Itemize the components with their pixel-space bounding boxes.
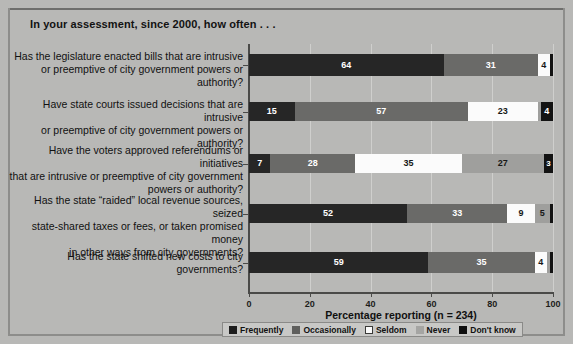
legend-swatch-icon — [292, 326, 300, 334]
legend-item[interactable]: Frequently — [229, 325, 283, 335]
legend-swatch-icon — [229, 326, 237, 334]
bar-row: 72835273 — [249, 154, 553, 173]
legend-label: Frequently — [240, 325, 283, 335]
category-label-line: Has the state “raided” local revenue sou… — [3, 194, 243, 220]
bar-value-label: 35 — [477, 258, 487, 267]
legend-item[interactable]: Seldom — [365, 325, 407, 335]
bar-value-label: 31 — [486, 61, 496, 70]
category-label: Has the state shifted new costs to city … — [3, 250, 243, 276]
bar-segment: 4 — [541, 102, 553, 121]
category-label-line: Have the voters approved referendums or … — [3, 144, 243, 170]
y-tick — [243, 112, 249, 113]
bar-segment: 57 — [295, 102, 468, 121]
category-label-column: Has the legislature enacted bills that a… — [0, 44, 243, 292]
bar-segment: 59 — [249, 252, 428, 273]
bar-segment: 5 — [535, 204, 550, 223]
bar-segment: 15 — [249, 102, 295, 121]
bar-segment: 7 — [249, 154, 270, 173]
chart-legend: FrequentlyOccasionallySeldomNeverDon't k… — [222, 322, 523, 337]
chart-title: In your assessment, since 2000, how ofte… — [30, 18, 276, 30]
plot-area: 6431415572347283527352339559354 02040608… — [249, 44, 553, 292]
x-tick — [249, 292, 250, 297]
bar-segment: 52 — [249, 204, 407, 223]
x-tick — [431, 292, 432, 297]
bar-value-label: 5 — [540, 209, 545, 218]
category-label: Has the legislature enacted bills that a… — [3, 50, 243, 89]
bar-value-label: 57 — [376, 107, 386, 116]
category-label-line: state-shared taxes or fees, or taken pro… — [3, 220, 243, 246]
category-label: Have the voters approved referendums or … — [3, 144, 243, 196]
legend-label: Don't know — [470, 325, 515, 335]
category-label-line: Have state courts issued decisions that … — [3, 98, 243, 124]
bar-segment — [550, 204, 553, 223]
legend-swatch-icon — [416, 326, 424, 334]
category-label: Have state courts issued decisions that … — [3, 98, 243, 150]
bar-row: 59354 — [249, 252, 553, 273]
bar-segment: 31 — [444, 54, 538, 76]
x-tick — [553, 292, 554, 297]
legend-item[interactable]: Occasionally — [292, 325, 355, 335]
x-tick — [310, 292, 311, 297]
bar-value-label: 28 — [308, 159, 318, 168]
bar-value-label: 59 — [334, 258, 344, 267]
y-tick — [243, 214, 249, 215]
bar-value-label: 23 — [498, 107, 508, 116]
category-label-line: Has the state shifted new costs to city … — [3, 250, 243, 276]
y-tick — [243, 164, 249, 165]
bar-value-label: 4 — [541, 61, 546, 70]
x-tick — [492, 292, 493, 297]
bar-segment: 35 — [428, 252, 534, 273]
x-tick-label: 40 — [366, 299, 376, 309]
bar-segment: 33 — [407, 204, 507, 223]
bar-value-label: 33 — [452, 209, 462, 218]
bar-value-label: 52 — [323, 209, 333, 218]
chart-figure: In your assessment, since 2000, how ofte… — [0, 0, 573, 344]
frame-top-border — [8, 8, 565, 10]
bar-value-label: 3 — [546, 160, 550, 168]
bar-value-label: 7 — [257, 159, 262, 168]
x-tick-label: 100 — [545, 299, 560, 309]
legend-swatch-icon — [459, 326, 467, 334]
bar-value-label: 9 — [519, 209, 524, 218]
bar-segment: 4 — [535, 252, 547, 273]
bar-segment: 9 — [507, 204, 534, 223]
x-axis-title: Percentage reporting (n = 234) — [249, 309, 553, 321]
bar-segment: 28 — [270, 154, 355, 173]
legend-item[interactable]: Don't know — [459, 325, 515, 335]
bar-value-label: 4 — [538, 258, 543, 267]
bar-segment — [550, 54, 553, 76]
gridline — [553, 44, 554, 292]
bar-row: 1557234 — [249, 102, 553, 121]
bar-segment — [550, 252, 553, 273]
x-tick-label: 80 — [487, 299, 497, 309]
legend-label: Occasionally — [303, 325, 355, 335]
category-label-line: Has the legislature enacted bills that a… — [3, 50, 243, 63]
bar-value-label: 4 — [544, 107, 549, 116]
bar-segment: 4 — [538, 54, 550, 76]
bar-value-label: 64 — [341, 61, 351, 70]
bar-value-label: 35 — [404, 159, 414, 168]
bar-segment: 64 — [249, 54, 444, 76]
y-tick — [243, 263, 249, 264]
x-tick-label: 20 — [305, 299, 315, 309]
frame-right-border — [563, 8, 565, 336]
bar-segment: 27 — [462, 154, 544, 173]
bar-segment: 23 — [468, 102, 538, 121]
bar-segment: 35 — [355, 154, 461, 173]
x-axis-line — [248, 292, 554, 294]
bar-segment: 3 — [544, 154, 553, 173]
legend-item[interactable]: Never — [416, 325, 451, 335]
category-label-line: or preemptive of city government powers … — [3, 63, 243, 89]
x-tick-label: 0 — [246, 299, 251, 309]
bar-value-label: 15 — [267, 107, 277, 116]
legend-label: Never — [427, 325, 451, 335]
legend-swatch-icon — [365, 326, 373, 334]
bar-row: 64314 — [249, 54, 553, 76]
bar-value-label: 27 — [498, 159, 508, 168]
bar-row: 523395 — [249, 204, 553, 223]
x-tick-label: 60 — [426, 299, 436, 309]
y-tick — [243, 65, 249, 66]
x-tick — [371, 292, 372, 297]
category-label-line: that are intrusive or preemptive of city… — [3, 170, 243, 183]
legend-label: Seldom — [376, 325, 407, 335]
